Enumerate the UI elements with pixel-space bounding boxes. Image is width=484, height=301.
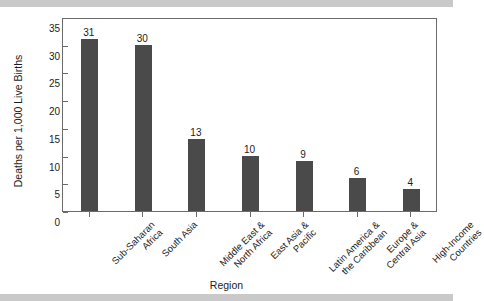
bar-value-label: 4 [390, 177, 430, 188]
x-category-label-line: South Asia [160, 219, 200, 259]
y-axis-ticks: 05101520253035 [36, 18, 60, 212]
bar-value-label: 13 [176, 127, 216, 138]
bar-value-label: 10 [230, 144, 270, 155]
x-tick-mark [303, 212, 304, 217]
x-tick-mark [250, 212, 251, 217]
bar-value-label: 30 [122, 33, 162, 44]
bar-value-label: 6 [337, 166, 377, 177]
bar [296, 161, 313, 211]
bar-chart: Deaths per 1,000 Live Births 05101520253… [0, 7, 453, 294]
y-tick-mark [63, 157, 68, 158]
x-axis-title: Region [0, 279, 453, 291]
x-category-label: Sub-SaharanAfrica [109, 219, 164, 274]
x-category-label: Europe &Central Asia [376, 219, 428, 271]
y-tick-mark [63, 212, 68, 213]
x-category-label: South Asia [160, 219, 200, 259]
bar-value-label: 31 [69, 27, 109, 38]
y-tick-label: 25 [38, 79, 60, 89]
x-tick-mark [89, 212, 90, 217]
y-tick-mark [63, 18, 68, 19]
y-tick-label: 35 [38, 24, 60, 34]
bottom-gray-band [0, 294, 453, 301]
y-tick-label: 20 [38, 107, 60, 117]
x-tick-mark [142, 212, 143, 217]
x-tick-mark [357, 212, 358, 217]
y-tick-mark [63, 184, 68, 185]
y-axis-title: Deaths per 1,000 Live Births [12, 31, 24, 211]
bar [242, 156, 259, 211]
y-tick-mark [63, 73, 68, 74]
bar-value-label: 9 [283, 149, 323, 160]
bar [349, 178, 366, 211]
y-tick-label: 5 [38, 190, 60, 200]
plot-inner [63, 19, 436, 211]
y-tick-mark [63, 46, 68, 47]
bar [81, 39, 98, 211]
x-category-label: Middle East &North Africa [217, 219, 274, 276]
plot-area [62, 18, 437, 212]
bar [188, 139, 205, 211]
x-tick-mark [196, 212, 197, 217]
y-tick-label: 10 [38, 163, 60, 173]
y-tick-label: 30 [38, 52, 60, 62]
top-gray-band [0, 0, 453, 7]
x-category-label: East Asia &Pacific [268, 219, 318, 269]
y-tick-label: 15 [38, 135, 60, 145]
bar [403, 189, 420, 211]
x-category-label: High-IncomeCountries [430, 219, 484, 273]
x-tick-mark [410, 212, 411, 217]
y-tick-mark [63, 129, 68, 130]
y-tick-label: 0 [38, 218, 60, 228]
y-tick-mark [63, 101, 68, 102]
bar [135, 45, 152, 211]
